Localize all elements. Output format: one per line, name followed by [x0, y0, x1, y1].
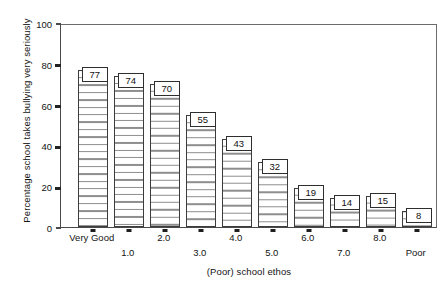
y-axis-tick-label: 60	[12, 100, 52, 111]
x-axis-tick-label: 3.0	[193, 247, 206, 258]
y-axis-tick-label: 0	[12, 223, 52, 234]
y-axis-tick	[55, 146, 61, 149]
x-axis-tick-label: 7.0	[337, 247, 350, 258]
y-axis-tick	[56, 227, 61, 228]
x-axis-tick	[342, 229, 347, 232]
bar-chart-figure: Percentage school takes bullying very se…	[0, 0, 444, 293]
plot-area: 7774705543321914158	[60, 24, 437, 228]
y-axis-tick-label: 20	[12, 182, 52, 193]
bar	[114, 76, 145, 227]
bar	[78, 70, 109, 227]
y-axis-tick	[56, 23, 61, 24]
bar-value-label: 19	[298, 185, 324, 200]
bar-value-label: 43	[226, 136, 252, 151]
x-axis-tick-label: 8.0	[373, 232, 386, 243]
x-axis-tick-label: 4.0	[229, 232, 242, 243]
bar	[150, 84, 181, 227]
bar-value-label: 55	[190, 112, 216, 127]
y-axis-tick-label: 80	[12, 59, 52, 70]
x-axis-tick	[198, 229, 203, 232]
x-axis-tick	[126, 229, 131, 232]
y-axis-tick-label: 100	[12, 19, 52, 30]
bar-value-label: 14	[334, 195, 360, 210]
y-axis-title: Percentage school takes bullying very se…	[21, 0, 32, 246]
x-axis-tick	[414, 229, 419, 232]
y-axis-tick	[55, 64, 61, 67]
bar-value-label: 8	[406, 208, 432, 223]
x-axis-tick	[270, 229, 275, 232]
x-axis-tick-label: Very Good	[69, 232, 114, 243]
bar-value-label: 15	[370, 193, 396, 208]
x-axis-tick-label: Poor	[406, 247, 426, 258]
bar-value-label: 77	[82, 67, 108, 82]
x-axis-tick-label: 2.0	[157, 232, 170, 243]
bar-value-label: 74	[118, 73, 144, 88]
bar-value-label: 70	[154, 81, 180, 96]
x-axis-tick-label: 1.0	[121, 247, 134, 258]
y-axis-tick	[55, 105, 61, 108]
bar	[222, 139, 253, 227]
y-axis-tick	[55, 187, 61, 190]
y-axis-tick-label: 40	[12, 141, 52, 152]
x-axis-tick-label: 5.0	[265, 247, 278, 258]
bar-value-label: 32	[262, 159, 288, 174]
bar	[186, 115, 217, 227]
x-axis-tick-label: 6.0	[301, 232, 314, 243]
x-axis-title: (Poor) school ethos	[60, 266, 438, 277]
